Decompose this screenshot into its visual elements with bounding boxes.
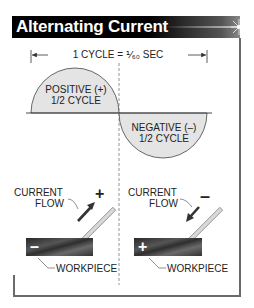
- positive-half-label-2: 1/2 CYCLE: [44, 95, 108, 106]
- left-electrode-group: [68, 199, 116, 243]
- negative-half-label-1: NEGATIVE (–): [128, 122, 200, 133]
- left-current-label-2: FLOW: [14, 198, 64, 209]
- right-workpiece-polarity: +: [138, 239, 147, 255]
- right-workpiece-label: WORKPIECE: [167, 263, 228, 274]
- left-current-label-1: CURRENT: [14, 187, 60, 198]
- right-current-label-1: CURRENT: [128, 187, 174, 198]
- positive-half-label-1: POSITIVE (+): [44, 84, 108, 95]
- right-current-label-2: FLOW: [128, 198, 178, 209]
- right-electrode-polarity: –: [200, 188, 210, 204]
- left-workpiece-polarity: –: [30, 239, 39, 255]
- left-electrode-polarity: +: [95, 186, 104, 202]
- negative-half-label-2: 1/2 CYCLE: [128, 133, 200, 144]
- left-workpiece-label: WORKPIECE: [56, 263, 117, 274]
- cycle-duration-label: 1 CYCLE = ⅟₆₀ SEC: [48, 49, 188, 61]
- ac-waveform-diagram: [0, 0, 254, 308]
